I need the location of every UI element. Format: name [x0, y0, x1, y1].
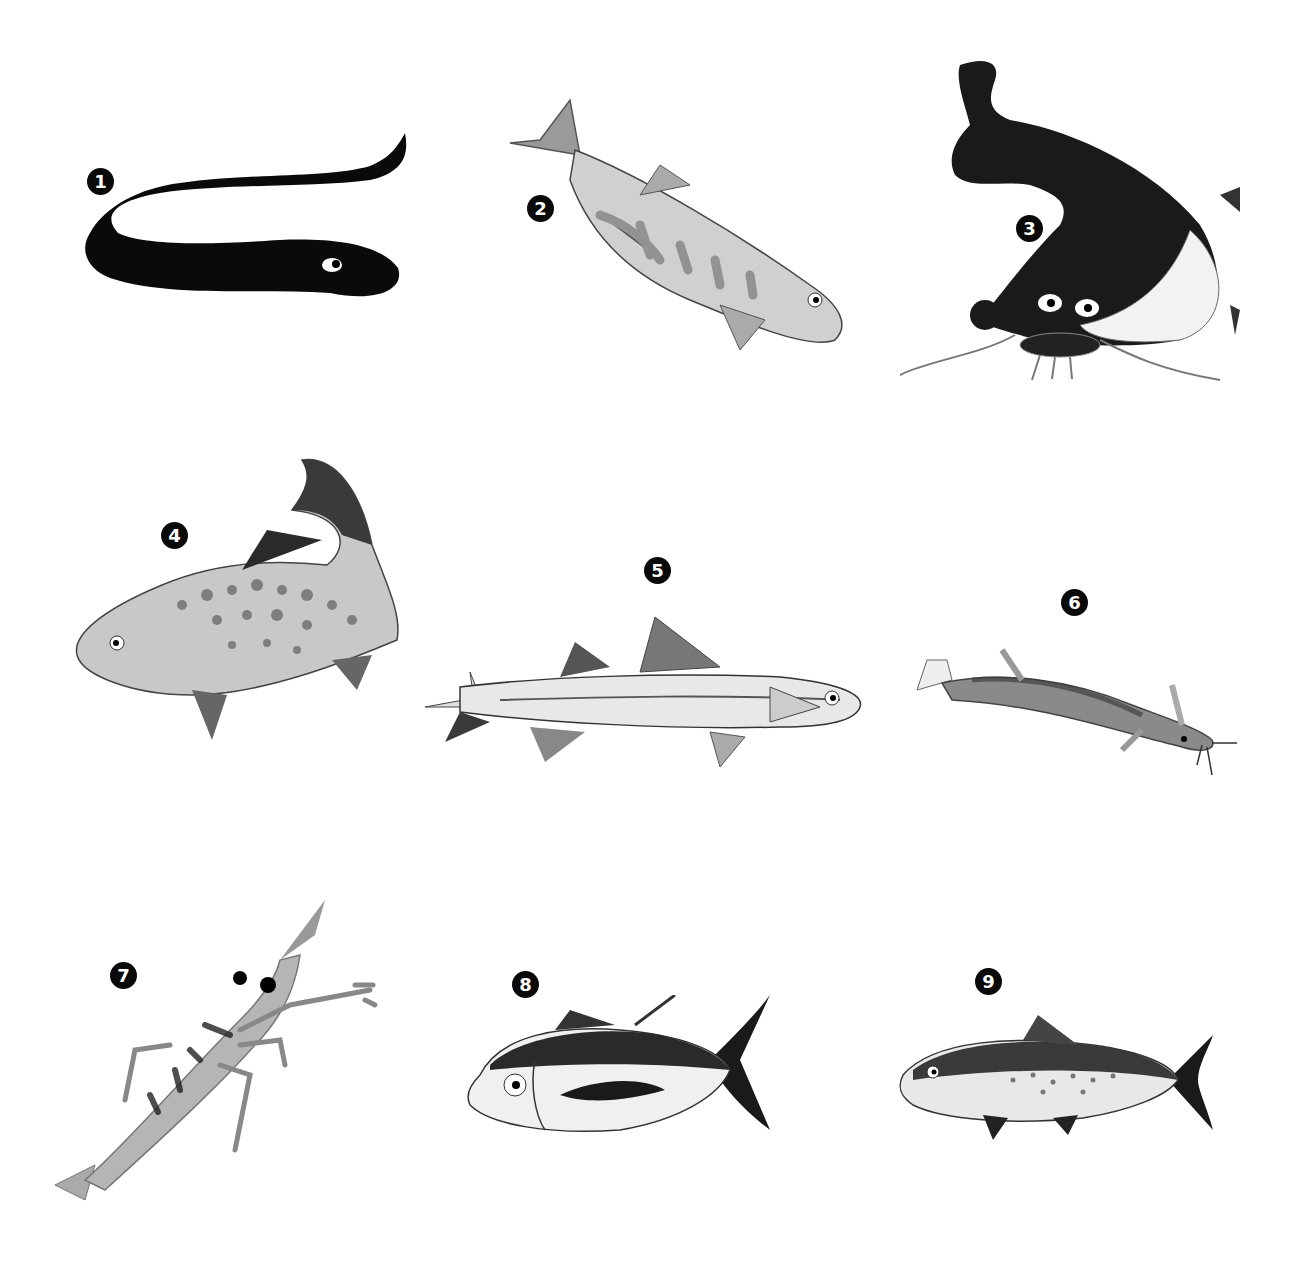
- number-badge-8: 8: [512, 971, 539, 998]
- catfish-illustration: [900, 55, 1240, 395]
- number-badge-9: 9: [975, 968, 1002, 995]
- eel-illustration: [80, 128, 420, 308]
- trout-illustration: [500, 95, 860, 365]
- number-badge-5: 5: [644, 557, 671, 584]
- spotted-trout-illustration: [72, 455, 412, 745]
- number-badge-6: 6: [1061, 589, 1088, 616]
- loach-illustration: [912, 625, 1242, 785]
- shrimp-illustration: [40, 890, 400, 1220]
- salmon-illustration: [893, 1010, 1223, 1150]
- slender-fish-illustration: [420, 612, 870, 772]
- tuna-illustration: [460, 995, 780, 1155]
